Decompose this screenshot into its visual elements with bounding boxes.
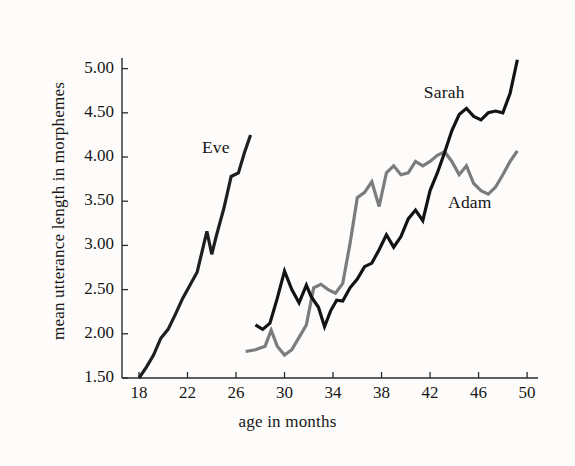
mlu-growth-chart: mean utterance length in morphemes age i… [0,0,575,466]
axes [122,58,538,378]
x-tick-label: 22 [167,383,207,403]
data-series [139,60,517,378]
y-tick-label: 2.50 [52,279,114,299]
x-axis-title: age in months [0,412,575,432]
x-tick-label: 46 [459,383,499,403]
y-tick-label: 5.00 [52,58,114,78]
y-tick-label: 4.50 [52,102,114,122]
series-label-sarah: Sarah [424,82,465,103]
x-tick-label: 50 [507,383,547,403]
y-tick-label: 4.00 [52,146,114,166]
x-tick-label: 26 [216,383,256,403]
x-tick-label: 18 [119,383,159,403]
x-tick-label: 42 [410,383,450,403]
y-tick-label: 3.50 [52,190,114,210]
y-tick-label: 3.00 [52,234,114,254]
series-line-adam [246,151,518,355]
series-label-adam: Adam [448,192,492,213]
y-tick-label: 1.50 [52,367,114,387]
y-tick-label: 2.00 [52,323,114,343]
x-tick-label: 38 [362,383,402,403]
series-label-eve: Eve [202,137,230,158]
x-tick-label: 34 [313,383,353,403]
series-line-eve [139,135,251,378]
x-tick-label: 30 [265,383,305,403]
